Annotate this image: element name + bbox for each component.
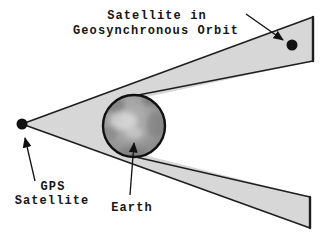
geo-satellite-dot xyxy=(287,40,298,51)
gps-signal-diagram: Satellite in Geosynchronous Orbit GPS Sa… xyxy=(0,0,324,238)
label-gps-satellite-line1: GPS xyxy=(41,180,66,194)
label-earth: Earth xyxy=(111,201,153,215)
label-geo-satellite-line2: Geosynchronous Orbit xyxy=(73,24,239,38)
gps-satellite-dot xyxy=(17,119,28,130)
lower-beam-outer-edge xyxy=(22,124,310,228)
label-gps-satellite-line2: Satellite xyxy=(15,194,90,208)
label-geo-satellite-line1: Satellite in xyxy=(107,9,207,23)
arrow-to-gps-satellite xyxy=(25,138,35,181)
diagram-canvas: Satellite in Geosynchronous Orbit GPS Sa… xyxy=(0,0,324,238)
